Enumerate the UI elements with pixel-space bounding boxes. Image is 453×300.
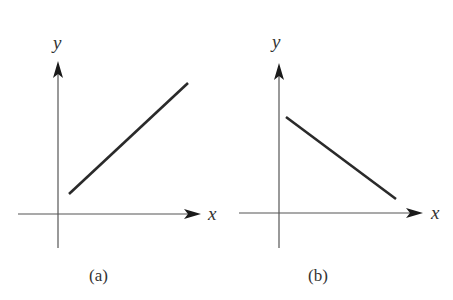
x-axis-label-b: x [430, 202, 440, 223]
line-negative-slope [286, 117, 396, 199]
panel-a: y x (a) [18, 32, 217, 285]
caption-b: (b) [308, 266, 328, 285]
x-axis-label-a: x [207, 203, 217, 224]
panel-b: y x (b) [239, 31, 440, 285]
y-axis-label-a: y [51, 32, 62, 53]
caption-a: (a) [89, 266, 108, 285]
y-axis-label-b: y [270, 31, 281, 52]
line-positive-slope [69, 83, 188, 194]
figure-canvas: y x (a) y x (b) [0, 0, 453, 300]
